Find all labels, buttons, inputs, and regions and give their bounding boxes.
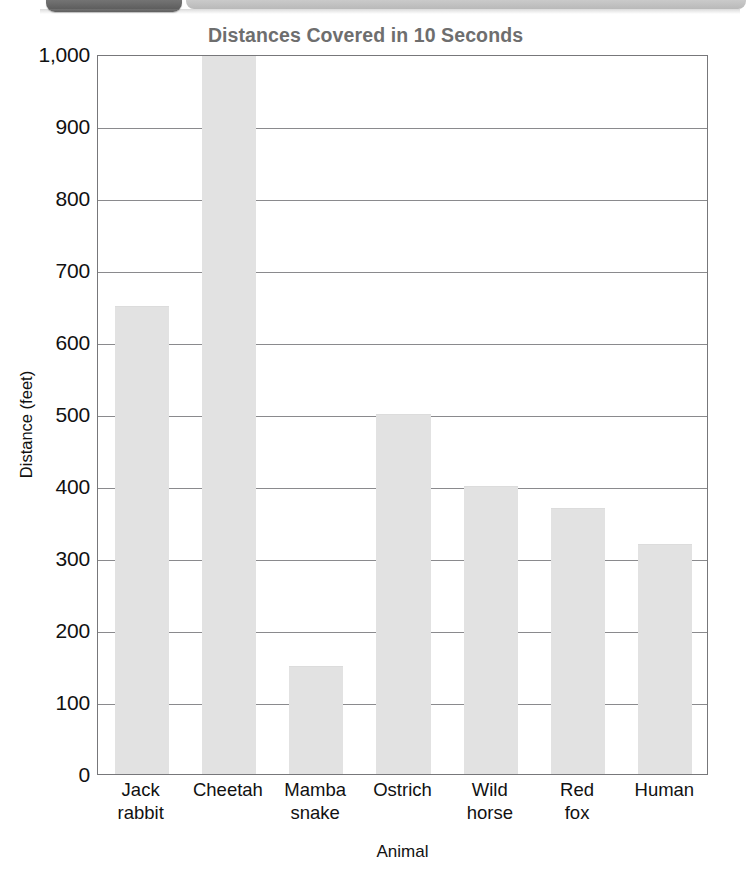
- plot-area: [97, 55, 708, 775]
- x-axis-tick-label: Human: [613, 778, 716, 801]
- x-axis-tick-labels: JackrabbitCheetahMambasnakeOstrichWildho…: [97, 778, 708, 848]
- y-axis-tick-label: 100: [4, 691, 90, 715]
- bar: [376, 414, 430, 774]
- y-axis-tick-labels: 01002003004005006007008009001,000: [0, 55, 90, 775]
- chart-title: Distances Covered in 10 Seconds: [0, 24, 731, 47]
- x-axis-title: Animal: [97, 842, 708, 862]
- y-axis-tick-label: 700: [4, 259, 90, 283]
- page-header-bar-icon: [186, 0, 746, 9]
- bar-chart-figure: Distances Covered in 10 Seconds Distance…: [0, 18, 731, 882]
- bars-layer: [98, 56, 707, 774]
- page-header-shadow: [40, 9, 740, 14]
- y-axis-tick-label: 600: [4, 331, 90, 355]
- y-axis-tick-label: 0: [4, 763, 90, 787]
- bar: [289, 666, 343, 774]
- bar: [202, 55, 256, 774]
- y-axis-tick-label: 400: [4, 475, 90, 499]
- y-axis-tick-label: 200: [4, 619, 90, 643]
- page-header-decoration: [0, 0, 731, 18]
- y-axis-tick-label: 800: [4, 187, 90, 211]
- y-axis-tick-label: 900: [4, 115, 90, 139]
- bar: [464, 486, 518, 774]
- y-axis-tick-label: 300: [4, 547, 90, 571]
- y-axis-tick-label: 500: [4, 403, 90, 427]
- y-axis-tick-label: 1,000: [4, 43, 90, 67]
- bar: [551, 508, 605, 774]
- bar: [638, 544, 692, 774]
- bar: [115, 306, 169, 774]
